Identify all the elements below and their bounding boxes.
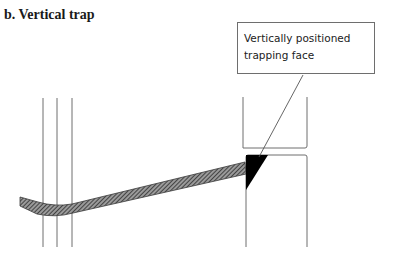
callout-box: Vertically positioned trapping face [237, 22, 375, 74]
left-vertical-lines [43, 98, 72, 247]
callout-leader-line [259, 75, 303, 157]
hatched-band [20, 162, 246, 216]
trapping-face [246, 155, 268, 190]
callout-line-2: trapping face [244, 47, 374, 64]
callout-line-1: Vertically positioned [244, 30, 374, 47]
upper-box [243, 97, 307, 148]
